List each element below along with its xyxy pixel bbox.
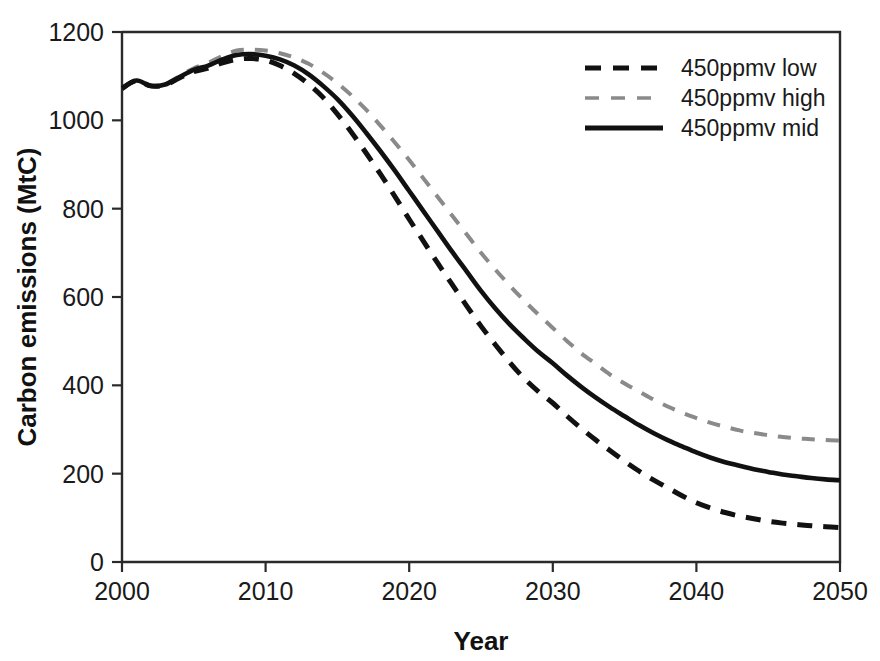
plot-frame — [122, 32, 840, 562]
x-tick-label: 2040 — [669, 577, 725, 605]
y-tick-label: 0 — [90, 548, 104, 576]
y-tick-label: 200 — [62, 460, 104, 488]
y-tick-label: 800 — [62, 195, 104, 223]
x-tick-label: 2050 — [812, 577, 868, 605]
y-tick-label: 1200 — [48, 18, 104, 46]
x-tick-label: 2010 — [238, 577, 294, 605]
x-axis-title: Year — [454, 626, 509, 656]
y-tick-label: 1000 — [48, 106, 104, 134]
legend-label-450ppmv-low: 450ppmv low — [681, 55, 817, 81]
legend-label-450ppmv-mid: 450ppmv mid — [681, 115, 819, 141]
chart-legend: 450ppmv low450ppmv high450ppmv mid — [585, 55, 826, 141]
x-tick-label: 2020 — [381, 577, 437, 605]
y-axis-title: Carbon emissions (MtC) — [12, 147, 42, 446]
legend-label-450ppmv-high: 450ppmv high — [681, 85, 826, 111]
chart-figure: 020040060080010001200 200020102020203020… — [0, 0, 880, 661]
x-tick-label: 2030 — [525, 577, 581, 605]
y-tick-label: 600 — [62, 283, 104, 311]
chart-canvas: 020040060080010001200 200020102020203020… — [0, 0, 880, 661]
x-tick-label: 2000 — [94, 577, 150, 605]
y-axis: 020040060080010001200 — [48, 18, 122, 576]
y-tick-label: 400 — [62, 371, 104, 399]
x-axis: 200020102020203020402050 — [94, 562, 868, 605]
